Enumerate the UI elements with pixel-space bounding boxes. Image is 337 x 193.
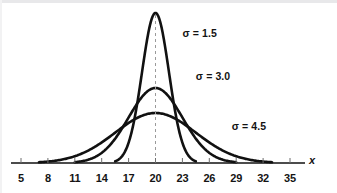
x-tick-label-35: 35	[277, 172, 303, 184]
x-tick-label-8: 8	[35, 172, 61, 184]
x-tick-label-26: 26	[196, 172, 222, 184]
x-tick-label-17: 17	[116, 172, 142, 184]
x-tick-label-11: 11	[62, 172, 88, 184]
x-tick-label-32: 32	[250, 172, 276, 184]
distribution-plot	[0, 0, 337, 193]
x-tick-label-5: 5	[8, 172, 34, 184]
x-tick-label-29: 29	[223, 172, 249, 184]
x-axis-label: x	[309, 154, 315, 166]
x-tick-label-14: 14	[89, 172, 115, 184]
normal-distribution-figure: 58111417202326293235 σ = 1.5σ = 3.0σ = 4…	[0, 0, 337, 193]
annotation-sigma-3.0: σ = 3.0	[196, 70, 230, 82]
x-tick-label-20: 20	[143, 172, 169, 184]
x-tick-label-23: 23	[169, 172, 195, 184]
annotation-sigma-1.5: σ = 1.5	[182, 27, 216, 39]
annotation-sigma-4.5: σ = 4.5	[232, 120, 266, 132]
